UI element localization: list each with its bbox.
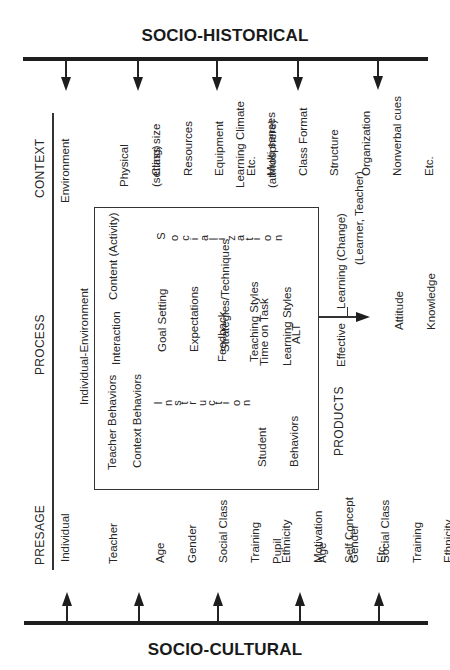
arrow-down-icon	[373, 76, 383, 90]
effective-label: Effective	[336, 323, 347, 367]
socio-cultural-bar	[24, 621, 428, 625]
climate-items-list: Multi senses Class Format Structure Orga…	[245, 96, 445, 176]
teacher-label: Teacher	[108, 523, 119, 564]
effective-divider-tick	[347, 307, 348, 317]
socio-historical-bar	[23, 57, 428, 61]
arrow-shaft	[66, 604, 68, 622]
products-header: PRODUCTS	[334, 386, 345, 456]
presage-header: PRESAGE	[35, 505, 46, 565]
pupil-attributes-list: Age Gender Social Class Training Ethnici…	[296, 497, 450, 563]
arrow-down-icon	[61, 77, 71, 91]
process-header: PROCESS	[35, 314, 46, 375]
arrow-shaft	[299, 604, 301, 622]
individual-header: Individual	[60, 513, 71, 562]
interaction-line1: Individual-Environment	[79, 288, 90, 405]
learning-change-label: Learning (Change)	[336, 213, 347, 309]
content-activity-label: Content (Activity)	[108, 212, 119, 300]
arrow-down-icon	[133, 77, 143, 91]
context-behaviors-label: Context Behaviors	[132, 374, 143, 468]
learner-teacher-label: (Learner, Teacher)	[354, 171, 365, 265]
learning-styles-label: Learning Styles	[282, 287, 293, 366]
outcomes-list: Attitude Knowledge Skills Behavior	[373, 273, 450, 330]
arrow-shaft	[138, 604, 140, 622]
socio-historical-title: SOCIO-HISTORICAL	[0, 26, 450, 46]
arrow-shaft	[378, 604, 380, 622]
arrow-shaft	[217, 604, 219, 622]
environment-header: Environment	[60, 138, 71, 203]
socio-cultural-title: SOCIO-CULTURAL	[0, 640, 450, 660]
time-on-task-list: Time on Task ALT	[238, 298, 312, 366]
teacher-behaviors-label: Teacher Behaviors	[107, 375, 118, 470]
pupil-label: Pupil	[272, 538, 283, 564]
arrow-down-icon	[212, 77, 222, 91]
arrow-down-icon	[293, 77, 303, 91]
student-behaviors-label: Student Behaviors	[236, 416, 310, 467]
context-header: CONTEXT	[35, 139, 46, 198]
header-divider-line	[52, 113, 54, 570]
products-arrow-shaft	[318, 316, 360, 318]
arrow-right-icon	[356, 312, 370, 322]
